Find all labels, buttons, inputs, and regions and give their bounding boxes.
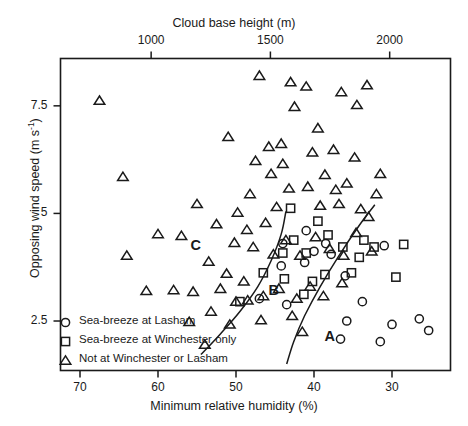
data-point-triangle bbox=[362, 81, 373, 89]
data-point-circle bbox=[425, 326, 433, 334]
data-point-triangle bbox=[141, 286, 152, 294]
data-point-triangle bbox=[245, 189, 256, 197]
data-point-triangle bbox=[254, 71, 265, 79]
data-point-square bbox=[355, 253, 363, 261]
data-point-triangle bbox=[242, 225, 253, 233]
y-tick-label-2.5: 2.5 bbox=[8, 313, 48, 327]
data-point-triangle bbox=[188, 287, 199, 295]
series-1-square bbox=[236, 204, 408, 306]
legend-glyph-triangle bbox=[60, 356, 71, 364]
data-point-triangle bbox=[331, 185, 342, 193]
secondary-x-tick-label-1500: 1500 bbox=[240, 33, 300, 47]
legend-label-triangle: Not at Winchester or Lasham bbox=[79, 352, 228, 364]
data-point-triangle bbox=[260, 218, 271, 226]
region-label-C: C bbox=[190, 237, 200, 253]
data-point-circle bbox=[376, 338, 384, 346]
x-tick-label-50: 50 bbox=[206, 380, 266, 394]
data-point-triangle bbox=[168, 285, 179, 293]
data-point-triangle bbox=[352, 100, 363, 108]
data-point-triangle bbox=[94, 96, 105, 104]
legend-marker-square-icon bbox=[60, 333, 71, 344]
data-point-circle bbox=[302, 227, 310, 235]
data-point-square bbox=[324, 231, 332, 239]
legend-marker-circle-icon bbox=[60, 314, 71, 325]
y-axis-ticks bbox=[54, 106, 61, 321]
data-point-triangle bbox=[303, 182, 314, 190]
data-point-circle bbox=[310, 247, 318, 255]
data-point-circle bbox=[277, 262, 285, 270]
x-tick-label-60: 60 bbox=[128, 380, 188, 394]
data-point-triangle bbox=[203, 257, 214, 265]
legend-glyph-square bbox=[61, 337, 69, 345]
data-point-triangle bbox=[328, 145, 339, 153]
data-point-triangle bbox=[320, 170, 331, 178]
data-point-circle bbox=[283, 301, 291, 309]
data-point-triangle bbox=[334, 199, 345, 207]
data-point-triangle bbox=[250, 156, 261, 164]
data-point-triangle bbox=[276, 139, 287, 147]
data-point-triangle bbox=[264, 142, 275, 150]
data-point-triangle bbox=[336, 87, 347, 95]
x-tick-label-40: 40 bbox=[284, 380, 344, 394]
data-point-triangle bbox=[221, 269, 232, 277]
legend-item-triangle[interactable]: Not at Winchester or Lasham bbox=[60, 348, 266, 367]
data-point-triangle bbox=[192, 199, 203, 207]
data-point-triangle bbox=[371, 189, 382, 197]
data-point-square bbox=[314, 217, 322, 225]
legend-label-square: Sea-breeze at Winchester only bbox=[79, 333, 236, 345]
region-label-B: B bbox=[268, 282, 278, 298]
data-point-triangle bbox=[295, 251, 306, 259]
data-point-triangle bbox=[239, 277, 250, 285]
secondary-x-tick-label-1000: 1000 bbox=[121, 33, 181, 47]
y-tick-label-5: 5 bbox=[8, 205, 48, 219]
data-point-square bbox=[279, 249, 287, 257]
legend-label-circle: Sea-breeze at Lasham bbox=[79, 314, 195, 326]
data-point-circle bbox=[336, 335, 344, 343]
data-point-circle bbox=[380, 242, 388, 250]
data-point-triangle bbox=[223, 132, 234, 140]
data-point-square bbox=[300, 290, 308, 298]
data-point-circle bbox=[358, 298, 366, 306]
data-point-triangle bbox=[356, 204, 367, 212]
data-point-triangle bbox=[118, 172, 129, 180]
data-point-square bbox=[280, 275, 288, 283]
secondary-x-tick-label-2000: 2000 bbox=[360, 33, 420, 47]
data-markers bbox=[94, 71, 433, 348]
legend-marker-triangle-icon bbox=[60, 352, 71, 363]
data-point-triangle bbox=[351, 228, 362, 236]
data-point-triangle bbox=[342, 179, 353, 187]
data-point-triangle bbox=[176, 231, 187, 239]
data-point-square bbox=[400, 240, 408, 248]
data-point-triangle bbox=[289, 102, 300, 110]
data-point-triangle bbox=[278, 159, 289, 167]
region-label-A: A bbox=[325, 328, 335, 344]
data-point-triangle bbox=[318, 291, 329, 299]
data-point-triangle bbox=[313, 124, 324, 132]
data-point-triangle bbox=[211, 220, 222, 228]
data-point-square bbox=[392, 273, 400, 281]
data-point-triangle bbox=[315, 201, 326, 209]
data-point-triangle bbox=[287, 311, 298, 319]
y-tick-label-7.5: 7.5 bbox=[8, 98, 48, 112]
secondary-x-axis-ticks bbox=[151, 52, 390, 59]
legend: Sea-breeze at LashamSea-breeze at Winche… bbox=[60, 310, 266, 367]
x-tick-label-70: 70 bbox=[50, 380, 110, 394]
data-point-circle bbox=[415, 315, 423, 323]
chart-canvas: Cloud base height (m) Minimum relative h… bbox=[0, 0, 468, 426]
data-point-triangle bbox=[122, 251, 133, 259]
legend-item-circle[interactable]: Sea-breeze at Lasham bbox=[60, 310, 266, 329]
data-point-triangle bbox=[375, 169, 386, 177]
data-point-triangle bbox=[301, 82, 312, 90]
data-point-triangle bbox=[349, 153, 360, 161]
legend-glyph-circle bbox=[61, 318, 69, 326]
data-point-square bbox=[287, 204, 295, 212]
series-2-triangle bbox=[94, 71, 385, 348]
data-point-triangle bbox=[307, 148, 318, 156]
data-point-triangle bbox=[232, 208, 243, 216]
data-point-triangle bbox=[285, 78, 296, 86]
data-point-triangle bbox=[153, 229, 164, 237]
data-point-triangle bbox=[271, 202, 282, 210]
legend-item-square[interactable]: Sea-breeze at Winchester only bbox=[60, 329, 266, 348]
data-point-circle bbox=[343, 317, 351, 325]
data-point-triangle bbox=[229, 238, 240, 246]
